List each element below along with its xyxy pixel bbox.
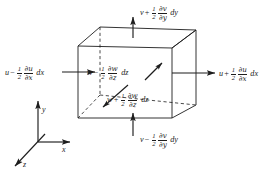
flux-label-front: w + 1 2 ∂w ∂z dz — [107, 92, 148, 108]
flux-bottom-half: 1 2 — [152, 133, 156, 148]
flux-label-right: u + 1 2 ∂u ∂x dx — [219, 66, 258, 82]
flux-top-half: 1 2 — [152, 6, 156, 21]
flux-back-operator: − — [94, 69, 99, 77]
flux-back-differential: dz — [121, 69, 128, 77]
flux-top-base: v — [140, 9, 144, 17]
flux-left-differential: dx — [36, 69, 44, 77]
flux-right-half: 1 2 — [231, 67, 235, 82]
arrow-back-w-in — [145, 63, 162, 80]
flux-bottom-base: v — [140, 136, 144, 144]
flux-left-derivative: ∂u ∂x — [24, 65, 34, 81]
flux-bottom-derivative: ∂v ∂y — [158, 132, 167, 148]
flux-label-back: w − 1 2 ∂w ∂z dz — [87, 65, 128, 81]
flux-front-differential: dz — [141, 96, 148, 104]
control-volume-figure: y x z v + 1 2 ∂v ∂y dy v − 1 2 ∂v ∂y dy … — [0, 0, 279, 177]
flux-label-bottom: v − 1 2 ∂v ∂y dy — [140, 132, 178, 148]
axis-z-arrow — [15, 134, 45, 166]
flux-bottom-operator: − — [145, 136, 150, 144]
flux-right-base: u — [219, 70, 223, 78]
flux-front-derivative: ∂w ∂z — [127, 92, 138, 108]
flux-top-differential: dy — [170, 9, 178, 17]
flux-right-operator: + — [224, 70, 229, 78]
flux-left-half: 1 2 — [17, 66, 21, 81]
flux-back-derivative: ∂w ∂z — [107, 65, 118, 81]
flux-left-operator: − — [10, 69, 15, 77]
flux-right-derivative: ∂u ∂x — [238, 66, 248, 82]
flux-left-base: u — [5, 69, 9, 77]
flux-back-base: w — [87, 69, 92, 77]
flux-front-operator: + — [114, 96, 119, 104]
flux-label-left: u − 1 2 ∂u ∂x dx — [5, 65, 44, 81]
flux-front-half: 1 2 — [121, 93, 125, 108]
flux-right-differential: dx — [250, 70, 258, 78]
axis-label-z: z — [23, 160, 26, 169]
diagram-linework — [0, 0, 279, 177]
cube-top-face — [78, 27, 196, 48]
flux-back-half: 1 2 — [101, 66, 105, 81]
axis-label-y: y — [42, 105, 46, 114]
flux-top-operator: + — [145, 9, 150, 17]
flux-top-derivative: ∂v ∂y — [158, 5, 167, 21]
flux-bottom-differential: dy — [170, 136, 178, 144]
axis-label-x: x — [62, 145, 66, 154]
flux-front-base: w — [107, 96, 112, 104]
flux-label-top: v + 1 2 ∂v ∂y dy — [140, 5, 178, 21]
